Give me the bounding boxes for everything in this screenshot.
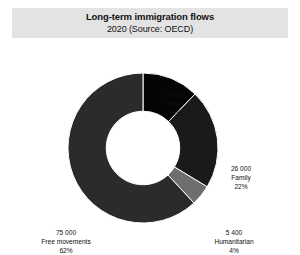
page-title: Long-term immigration flows xyxy=(86,12,214,23)
data-label-work-value: 14 800 xyxy=(144,90,206,99)
data-label-humanitarian: 5 400 Humanitarian 4% xyxy=(198,228,270,255)
data-label-family: 26 000 Family 22% xyxy=(212,164,270,191)
chart-subtitle: 2020 (Source: OECD) xyxy=(107,24,193,34)
data-label-work-name: Work xyxy=(144,99,206,108)
data-label-humanitarian-value: 5 400 xyxy=(198,228,270,237)
data-label-free-movements: 75 000 Free movements 62% xyxy=(24,228,108,255)
data-label-free-name: Free movements xyxy=(24,237,108,246)
data-label-free-value: 75 000 xyxy=(24,228,108,237)
data-label-family-percent: 22% xyxy=(212,182,270,191)
donut-chart xyxy=(0,38,300,244)
data-label-work: 14 800 Work 12% xyxy=(144,90,206,117)
data-label-humanitarian-name: Humanitarian xyxy=(198,237,270,246)
plot-area: 14 800 Work 12% 26 000 Family 22% 5 400 … xyxy=(0,38,300,244)
data-label-family-value: 26 000 xyxy=(212,164,270,173)
data-label-family-name: Family xyxy=(212,173,270,182)
data-label-work-percent: 12% xyxy=(144,108,206,117)
data-label-humanitarian-percent: 4% xyxy=(198,246,270,255)
title-band: Long-term immigration flows 2020 (Source… xyxy=(12,8,288,38)
data-label-free-percent: 62% xyxy=(24,246,108,255)
